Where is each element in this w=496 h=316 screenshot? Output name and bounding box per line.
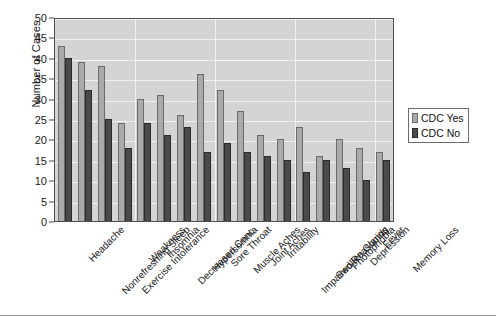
bar-cdc-yes — [58, 46, 65, 221]
y-axis-tick-label: 40 — [35, 53, 47, 65]
y-axis-tick-label: 30 — [35, 94, 47, 106]
light-gray-swatch — [412, 113, 418, 123]
bar-cdc-no — [125, 148, 132, 221]
y-axis-tick-label: 20 — [35, 134, 47, 146]
y-axis-tick-label: 25 — [35, 114, 47, 126]
bar-cdc-yes — [296, 127, 303, 221]
bar-cdc-yes — [356, 148, 363, 221]
bar-cdc-yes — [277, 139, 284, 221]
bar-group — [373, 19, 393, 221]
y-axis: 05101520253035404550 — [20, 18, 54, 222]
bar-group — [75, 19, 95, 221]
legend-item: CDC No — [412, 127, 464, 139]
bar-group — [254, 19, 274, 221]
plot-area — [54, 18, 394, 222]
bar-cdc-yes — [78, 62, 85, 221]
bar-cdc-yes — [336, 139, 343, 221]
bar-group — [274, 19, 294, 221]
chart-legend: CDC YesCDC No — [408, 108, 469, 143]
bar-group — [333, 19, 353, 221]
bar-cdc-yes — [217, 90, 224, 221]
bar-cdc-no — [244, 152, 251, 221]
bar-cdc-yes — [376, 152, 383, 221]
bar-cdc-no — [65, 58, 72, 221]
y-axis-tick-label: 5 — [41, 196, 47, 208]
bar-cdc-yes — [157, 95, 164, 221]
bar-group — [194, 19, 214, 221]
bar-cdc-no — [184, 127, 191, 221]
y-axis-tick-label: 45 — [35, 32, 47, 44]
legend-item-label: CDC No — [421, 127, 460, 139]
x-axis-labels: HeadacheNonrefreshing SleepExercise Into… — [54, 224, 394, 310]
y-axis-tick-label: 35 — [35, 73, 47, 85]
bar-cdc-yes — [118, 123, 125, 221]
legend-item-label: CDC Yes — [421, 112, 464, 124]
bar-cdc-no — [144, 123, 151, 221]
bar-group — [95, 19, 115, 221]
bar-cdc-no — [363, 180, 370, 221]
x-axis-label: Memory Loss — [411, 224, 461, 274]
bar-cdc-no — [343, 168, 350, 221]
y-axis-tick-label: 0 — [41, 216, 47, 228]
bar-chart-figure: Number of Cases 05101520253035404550 Hea… — [0, 0, 496, 316]
bar-cdc-no — [105, 119, 112, 221]
bar-cdc-no — [224, 143, 231, 221]
dark-gray-swatch — [412, 128, 418, 138]
bar-group — [313, 19, 333, 221]
bar-cdc-no — [85, 90, 92, 221]
x-axis-label: Headache — [86, 224, 126, 264]
legend-item: CDC Yes — [412, 112, 464, 124]
bar-cdc-yes — [197, 74, 204, 221]
bar-cdc-no — [164, 135, 171, 221]
bar-cdc-yes — [237, 111, 244, 221]
bar-group — [294, 19, 314, 221]
bar-cdc-no — [284, 160, 291, 221]
y-axis-tick-label: 15 — [35, 155, 47, 167]
bar-group — [115, 19, 135, 221]
bar-cdc-no — [383, 160, 390, 221]
y-axis-tick-label: 50 — [35, 12, 47, 24]
bar-group — [55, 19, 75, 221]
bar-cdc-no — [303, 172, 310, 221]
bar-group — [135, 19, 155, 221]
bar-cdc-yes — [177, 115, 184, 221]
bar-group — [214, 19, 234, 221]
bars-layer — [55, 19, 393, 221]
bar-group — [174, 19, 194, 221]
y-axis-tick-label: 10 — [35, 175, 47, 187]
bar-group — [154, 19, 174, 221]
bar-cdc-yes — [98, 66, 105, 221]
bar-cdc-no — [204, 152, 211, 221]
bar-cdc-yes — [137, 99, 144, 221]
bar-group — [353, 19, 373, 221]
bar-cdc-yes — [257, 135, 264, 221]
bar-cdc-yes — [316, 156, 323, 221]
bar-group — [234, 19, 254, 221]
bar-cdc-no — [264, 156, 271, 221]
bar-cdc-no — [323, 160, 330, 221]
